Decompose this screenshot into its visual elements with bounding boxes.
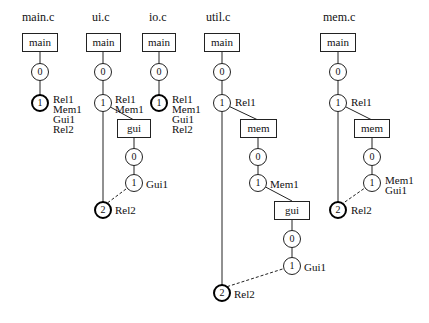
node-label: Rel2 (351, 205, 372, 215)
node-label: Rel1 (235, 97, 256, 107)
diagram-title: mem.c (323, 11, 355, 23)
state-node-0: 0 (329, 63, 347, 81)
state-node-1: 1 (363, 174, 381, 192)
function-box-main: main (320, 33, 356, 52)
state-node-0: 0 (213, 63, 231, 81)
function-box-main: main (142, 33, 176, 52)
state-node-0: 0 (31, 63, 49, 81)
node-label: Rel1 (351, 97, 372, 107)
state-node-0: 0 (249, 148, 267, 166)
diagram-title: io.c (149, 11, 167, 23)
function-box-gui: gui (117, 119, 151, 138)
function-box-main: main (86, 33, 121, 52)
function-box-main: main (22, 33, 58, 52)
diagram-title: ui.c (92, 11, 110, 23)
diagram-title: main.c (22, 11, 54, 23)
node-label: Rel1 Mem1 Gui1 Rel2 (172, 94, 201, 134)
node-label: Gui1 (304, 262, 326, 272)
node-label: Mem1 (270, 179, 299, 189)
state-node-1: 1 (283, 257, 301, 275)
node-label: Mem1 Gui1 (385, 175, 414, 195)
node-label: Rel1 Mem1 Gui1 Rel2 (53, 94, 82, 134)
state-node-1: 1 (213, 94, 231, 112)
node-label: Rel1 Mem1 (115, 94, 144, 114)
node-label: Gui1 (146, 179, 168, 189)
state-node-0: 0 (150, 63, 168, 81)
state-node-0: 0 (283, 230, 301, 248)
state-node-0: 0 (363, 148, 381, 166)
node-label: Rel2 (115, 205, 136, 215)
state-node-1: 1 (94, 94, 112, 112)
state-node-1-terminal: 1 (150, 94, 168, 112)
state-node-0: 0 (125, 148, 143, 166)
function-box-mem: mem (354, 119, 390, 138)
state-node-1: 1 (329, 94, 347, 112)
state-node-1-terminal: 1 (31, 94, 49, 112)
state-node-1: 1 (125, 174, 143, 192)
function-box-mem: mem (240, 119, 277, 138)
function-box-gui: gui (274, 201, 310, 220)
state-node-2-terminal: 2 (329, 201, 347, 219)
state-node-1: 1 (249, 174, 267, 192)
state-node-2-terminal: 2 (213, 284, 231, 302)
diagram-title: util.c (206, 11, 230, 23)
node-label: Rel2 (234, 289, 255, 299)
state-node-2-terminal: 2 (94, 201, 112, 219)
function-box-main: main (204, 33, 240, 52)
state-node-0: 0 (94, 63, 112, 81)
